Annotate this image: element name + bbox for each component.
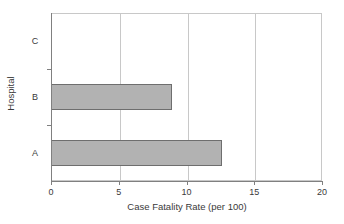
y-tick-mark-2 bbox=[47, 69, 52, 70]
x-tick-label-10: 10 bbox=[172, 186, 202, 198]
x-axis-title: Case Fatality Rate (per 100) bbox=[51, 201, 323, 212]
x-tick-label-15: 15 bbox=[239, 186, 269, 198]
bar-A bbox=[51, 140, 222, 166]
gridline-x-15 bbox=[255, 14, 256, 180]
x-tick-mark-10 bbox=[187, 181, 188, 185]
y-axis-title: Hospital bbox=[5, 62, 16, 126]
y-axis-line bbox=[51, 13, 52, 182]
y-tick-label-A: A bbox=[26, 148, 44, 158]
bar-chart: 05101520 ABC Case Fatality Rate (per 100… bbox=[0, 0, 344, 224]
x-tick-mark-20 bbox=[322, 181, 323, 185]
x-tick-mark-0 bbox=[51, 181, 52, 185]
y-tick-mark-1 bbox=[47, 125, 52, 126]
y-tick-label-B: B bbox=[26, 92, 44, 102]
x-tick-label-5: 5 bbox=[104, 186, 134, 198]
x-tick-label-0: 0 bbox=[36, 186, 66, 198]
x-tick-mark-5 bbox=[119, 181, 120, 185]
bar-B bbox=[51, 84, 172, 110]
x-tick-mark-15 bbox=[254, 181, 255, 185]
y-tick-label-C: C bbox=[26, 36, 44, 46]
x-tick-label-20: 20 bbox=[307, 186, 337, 198]
